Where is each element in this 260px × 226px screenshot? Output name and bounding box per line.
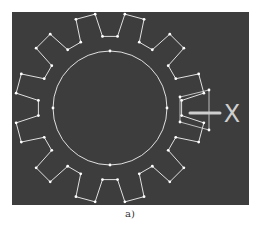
vertex-point	[15, 92, 18, 95]
vertex-point	[168, 33, 171, 36]
vertex-point	[15, 121, 18, 124]
vertex-point	[182, 166, 185, 169]
vertex-point	[66, 48, 69, 51]
vertex-point	[180, 114, 183, 117]
vertex-point	[49, 180, 52, 183]
vertex-point	[50, 149, 53, 152]
vertex-point	[109, 164, 112, 167]
vertex-point	[50, 64, 53, 67]
vertex-point	[94, 13, 97, 16]
vertex-point	[180, 99, 183, 102]
vertex-point	[167, 149, 170, 152]
vertex-point	[143, 195, 146, 198]
vertex-point	[168, 180, 171, 183]
vertex-point	[182, 47, 185, 50]
vertex-point	[43, 77, 46, 80]
vertex-point	[49, 33, 52, 36]
vertex-point	[208, 89, 211, 92]
vertex-point	[79, 172, 82, 175]
vertex-point	[20, 73, 23, 76]
vertex-point	[37, 114, 40, 117]
axis-label-x: X	[224, 100, 240, 128]
vertex-point	[94, 200, 97, 203]
vertex-point	[123, 13, 126, 16]
vertex-point	[123, 200, 126, 203]
figure-caption: a)	[0, 208, 260, 219]
vertex-point	[208, 129, 211, 132]
vertex-point	[151, 165, 154, 168]
vertex-point	[79, 41, 82, 44]
vertex-point	[138, 41, 141, 44]
vertex-point	[138, 172, 141, 175]
vertex-point	[101, 35, 104, 38]
vertex-point	[197, 73, 200, 76]
vertex-point	[143, 18, 146, 21]
vertex-point	[174, 77, 177, 80]
vertex-point	[75, 18, 78, 21]
vertex-point	[116, 35, 119, 38]
vertex-point	[167, 64, 170, 67]
vertex-point	[166, 107, 169, 110]
vertex-point	[179, 121, 182, 124]
vertex-point	[202, 121, 205, 124]
vertex-point	[52, 107, 55, 110]
vertex-point	[109, 50, 112, 53]
vertex-point	[75, 195, 78, 198]
gear-wireframe-diagram: X	[0, 0, 260, 226]
vertex-point	[101, 178, 104, 181]
vertex-point	[20, 141, 23, 144]
vertex-point	[35, 47, 38, 50]
vertex-point	[43, 136, 46, 139]
vertex-point	[174, 136, 177, 139]
vertex-point	[116, 178, 119, 181]
vertex-point	[197, 141, 200, 144]
vertex-point	[37, 99, 40, 102]
inner-circle	[53, 51, 167, 165]
vertex-point	[35, 166, 38, 169]
vertex-point	[151, 48, 154, 51]
vertex-point	[202, 92, 205, 95]
vertex-point	[179, 96, 182, 99]
vertex-point	[66, 165, 69, 168]
gear-outline	[16, 14, 204, 202]
